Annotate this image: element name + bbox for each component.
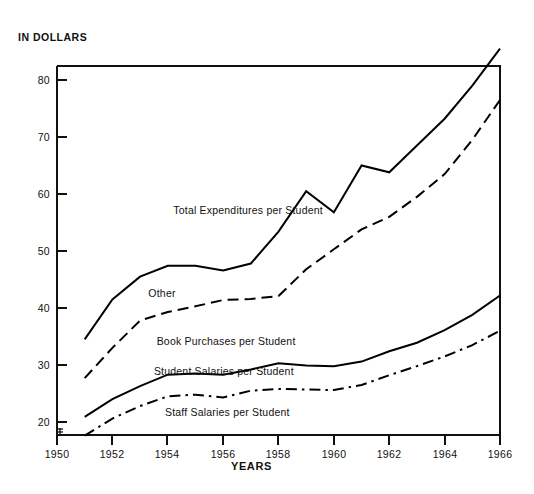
x-tick-label-1966: 1966 [488,448,513,460]
series-line-2 [85,295,500,416]
x-axis-title: YEARS [231,460,272,472]
series-label-4: Staff Salaries per Student [165,406,290,418]
x-tick-label-1958: 1958 [266,448,291,460]
series-line-0 [85,49,500,340]
y-tick-label-60: 60 [38,188,50,200]
y-tick-label-70: 70 [38,131,50,143]
x-tick-label-1952: 1952 [100,448,125,460]
series-label-3: Student Salaries per Student [154,365,294,377]
chart-figure: IN DOLLARS YEARS 80 70 60 50 40 30 20 [0,0,534,494]
x-tick-label-1956: 1956 [211,448,236,460]
y-tick-label-40: 40 [38,302,50,314]
y-tick-label-50: 50 [38,245,50,257]
line-chart-canvas: IN DOLLARS YEARS 80 70 60 50 40 30 20 [0,0,534,494]
series-label-layer: Total Expenditures per StudentOtherBook … [148,204,323,418]
y-axis-break-icon [57,428,63,435]
y-tick-label-30: 30 [38,359,50,371]
y-axis-ticks: 80 70 60 50 40 30 20 [38,74,67,428]
y-tick-label-20: 20 [38,416,50,428]
x-axis-ticks: 1950 1952 1954 1956 1958 1960 1962 1964 … [45,435,513,460]
axis-box [57,66,500,435]
series-label-2: Book Purchases per Student [157,335,296,347]
x-tick-label-1964: 1964 [433,448,458,460]
plot-frame [57,66,500,435]
series-label-0: Total Expenditures per Student [173,204,323,216]
x-tick-label-1960: 1960 [322,448,347,460]
y-tick-label-80: 80 [38,74,50,86]
y-axis-title: IN DOLLARS [18,31,87,43]
x-tick-label-1962: 1962 [377,448,402,460]
x-tick-label-1954: 1954 [155,448,180,460]
data-series-layer [85,49,500,436]
x-tick-label-1950: 1950 [45,448,70,460]
series-label-1: Other [148,287,176,299]
